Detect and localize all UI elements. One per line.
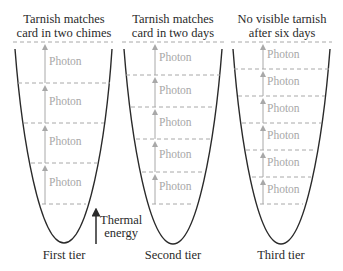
title-line-1: No visible tarnish <box>222 12 342 26</box>
photon-label: Photon <box>267 129 300 141</box>
photon-label: Photon <box>267 183 300 195</box>
energy-levels <box>231 42 332 204</box>
thermal-energy-label: Thermal energy <box>100 214 142 240</box>
title-line-1: Tarnish matches <box>113 12 233 26</box>
tier-label-first: First tier <box>9 248 119 263</box>
photon-label: Photon <box>159 116 192 128</box>
photon-label: Photon <box>159 148 192 160</box>
photon-label: Photon <box>267 102 300 114</box>
photon-label: Photon <box>49 176 82 188</box>
title-line-1: Tarnish matches <box>4 12 124 26</box>
photon-label: Photon <box>159 51 192 63</box>
title-line-2: after six days <box>222 26 342 40</box>
tier-label-second: Second tier <box>118 248 228 263</box>
thermal-line-2: energy <box>100 227 142 240</box>
photon-label: Photon <box>49 55 82 67</box>
title-line-2: card in two chimes <box>4 26 124 40</box>
tier-label-third: Third tier <box>226 248 336 263</box>
well-title-first: Tarnish matches card in two chimes <box>4 12 124 40</box>
title-line-2: card in two days <box>113 26 233 40</box>
well-title-third: No visible tarnish after six days <box>222 12 342 40</box>
photon-label: Photon <box>159 180 192 192</box>
well-title-second: Tarnish matches card in two days <box>113 12 233 40</box>
photon-label: Photon <box>159 84 192 96</box>
photon-label: Photon <box>49 95 82 107</box>
photon-label: Photon <box>49 135 82 147</box>
photon-label: Photon <box>267 48 300 60</box>
photon-label: Photon <box>267 75 300 87</box>
photon-label: Photon <box>267 156 300 168</box>
well-third-tier <box>231 42 332 244</box>
